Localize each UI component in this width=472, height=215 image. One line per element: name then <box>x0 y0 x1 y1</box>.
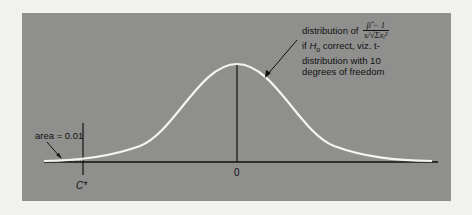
fraction-denominator: s/√Σxᵢ² <box>363 31 388 40</box>
distribution-annotation: distribution of β̂ − 1 s/√Σxᵢ² if Ho cor… <box>302 21 389 77</box>
anno-prefix: distribution of <box>302 25 359 36</box>
critical-value-label: C* <box>76 180 87 191</box>
area-label: area = 0.01 <box>35 130 83 141</box>
anno-line4: degrees of freedom <box>302 66 389 77</box>
distribution-arrow <box>268 40 297 74</box>
anno-line3: distribution with 10 <box>302 55 389 66</box>
statistic-fraction: β̂ − 1 s/√Σxᵢ² <box>363 21 389 40</box>
anno-line2-rest: correct, viz. t- <box>320 40 380 51</box>
zero-tick-label: 0 <box>234 167 240 178</box>
chart-plot <box>0 0 472 215</box>
t-distribution-curve <box>44 64 432 161</box>
shaded-tail-region <box>64 158 82 161</box>
